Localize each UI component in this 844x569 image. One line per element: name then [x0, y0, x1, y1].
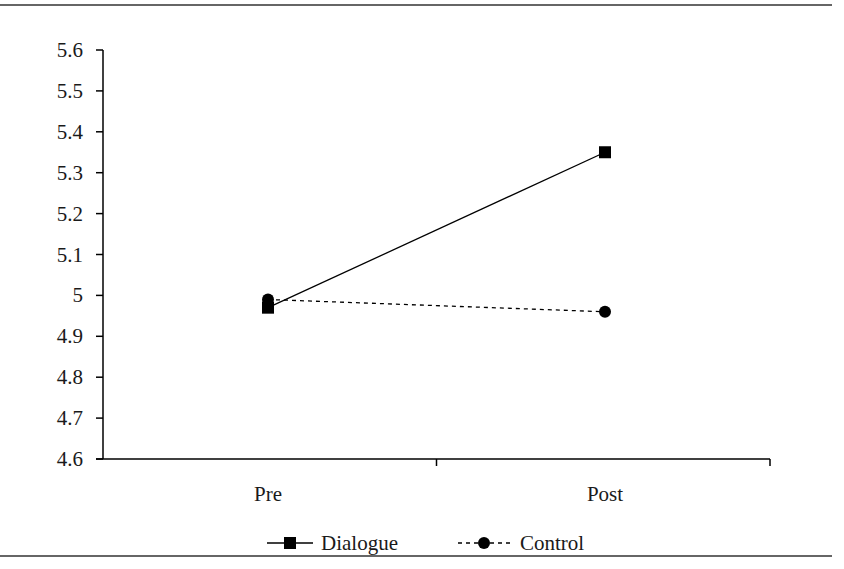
y-axis: 5.65.55.45.35.25.154.94.84.74.6 — [57, 38, 103, 471]
series-control — [262, 293, 611, 317]
circle-marker — [262, 293, 274, 305]
line-chart: 5.65.55.45.35.25.154.94.84.74.6 PrePost … — [0, 0, 844, 569]
x-category-label: Pre — [254, 482, 282, 506]
circle-marker — [478, 537, 490, 549]
x-category-label: Post — [587, 482, 623, 506]
y-tick-label: 5.4 — [57, 120, 84, 144]
legend-item-dialogue: Dialogue — [267, 531, 398, 555]
x-axis: PrePost — [96, 459, 770, 506]
series-dialogue — [262, 146, 611, 313]
legend-label: Control — [520, 531, 584, 555]
y-tick-label: 5.2 — [57, 202, 83, 226]
y-tick-label: 4.7 — [57, 406, 83, 430]
legend-item-control: Control — [458, 531, 584, 555]
y-tick-label: 5.6 — [57, 38, 83, 62]
y-tick-label: 4.6 — [57, 447, 83, 471]
series-layer — [262, 146, 611, 318]
y-tick-label: 4.9 — [57, 324, 83, 348]
y-tick-label: 5 — [73, 283, 84, 307]
circle-marker — [599, 306, 611, 318]
legend-label: Dialogue — [321, 531, 398, 555]
square-marker — [284, 537, 296, 549]
y-tick-label: 4.8 — [57, 365, 83, 389]
y-tick-label: 5.5 — [57, 79, 83, 103]
y-tick-label: 5.1 — [57, 243, 83, 267]
legend: DialogueControl — [267, 531, 584, 555]
y-tick-label: 5.3 — [57, 161, 83, 185]
square-marker — [599, 146, 611, 158]
